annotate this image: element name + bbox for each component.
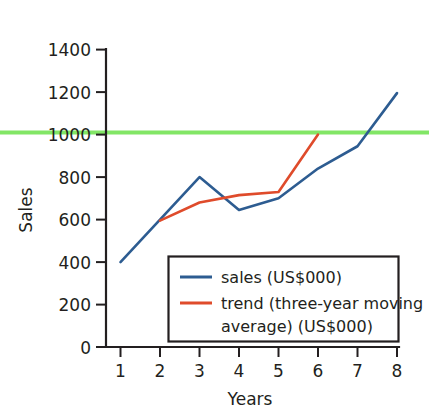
chart-background (0, 0, 429, 418)
chart-legend: sales (US$000) trend (three-year moving … (169, 257, 424, 342)
y-tick-label-400: 400 (59, 253, 91, 273)
legend-label-trend-line2: average) (US$000) (221, 317, 373, 336)
y-tick-label-200: 200 (59, 295, 91, 315)
legend-label-trend-line1: trend (three-year moving (221, 294, 423, 313)
y-tick-label-600: 600 (59, 210, 91, 230)
x-tick-label-2: 2 (155, 361, 166, 381)
x-tick-label-8: 8 (392, 361, 403, 381)
y-tick-label-0: 0 (80, 338, 91, 358)
x-tick-label-5: 5 (273, 361, 284, 381)
x-tick-label-3: 3 (194, 361, 205, 381)
x-tick-label-4: 4 (234, 361, 245, 381)
x-tick-label-6: 6 (313, 361, 324, 381)
legend-label-sales: sales (US$000) (221, 268, 342, 287)
y-tick-label-1400: 1400 (48, 40, 91, 60)
y-axis-title: Sales (16, 187, 36, 232)
x-tick-label-1: 1 (115, 361, 126, 381)
y-tick-label-1200: 1200 (48, 83, 91, 103)
line-chart: 1400 1200 1000 800 600 400 200 0 1 2 3 4… (0, 0, 429, 418)
y-tick-label-1000: 1000 (48, 125, 91, 145)
x-tick-label-7: 7 (352, 361, 363, 381)
y-tick-label-800: 800 (59, 168, 91, 188)
chart-canvas: 1400 1200 1000 800 600 400 200 0 1 2 3 4… (0, 0, 429, 418)
x-axis-title: Years (227, 389, 273, 409)
